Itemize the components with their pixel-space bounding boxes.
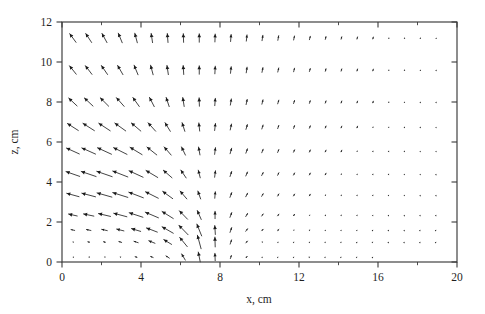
quiver-plot-canvas: 048121620024681012 x, cm z, cm bbox=[0, 0, 485, 314]
svg-text:z, cm: z, cm bbox=[8, 129, 21, 154]
svg-text:x, cm: x, cm bbox=[246, 293, 272, 306]
x-tick-label: 4 bbox=[138, 271, 144, 283]
y-axis-label: z, cm bbox=[8, 129, 21, 154]
z-tick-label: 6 bbox=[46, 136, 52, 148]
z-tick-label: 12 bbox=[41, 16, 53, 28]
z-tick-label: 10 bbox=[41, 56, 53, 68]
x-axis-label: x, cm bbox=[246, 293, 272, 306]
x-tick-label: 0 bbox=[59, 271, 65, 283]
z-tick-label: 0 bbox=[46, 256, 52, 268]
plot-background bbox=[0, 0, 485, 314]
x-tick-label: 8 bbox=[217, 271, 223, 283]
vector-field-figure: 048121620024681012 x, cm z, cm bbox=[0, 0, 485, 314]
z-tick-label: 2 bbox=[46, 216, 52, 228]
x-tick-label: 12 bbox=[293, 271, 305, 283]
x-tick-label: 16 bbox=[372, 271, 384, 283]
x-tick-label: 20 bbox=[451, 271, 463, 283]
z-tick-label: 4 bbox=[46, 176, 52, 188]
z-tick-label: 8 bbox=[46, 96, 52, 108]
